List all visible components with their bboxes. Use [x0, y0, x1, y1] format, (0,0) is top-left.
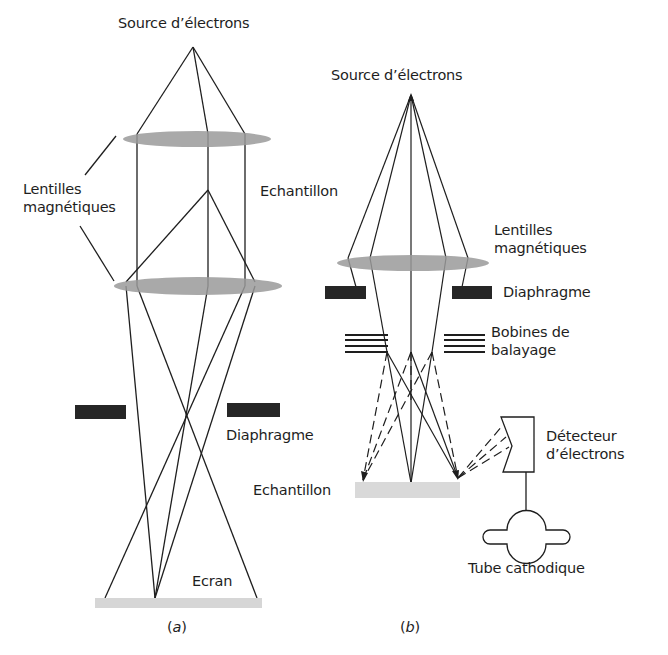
ray	[137, 47, 193, 134]
diaphragm-left-a	[75, 405, 126, 419]
ray	[411, 352, 458, 478]
label-diaphragm-b: Diaphragme	[503, 284, 591, 301]
ray	[411, 95, 468, 258]
ray-dashed	[363, 352, 411, 480]
ray	[370, 258, 387, 352]
sample-b	[355, 482, 460, 498]
label-diaphragm-a: Diaphragme	[226, 427, 314, 444]
caption-a: (a)	[167, 619, 187, 636]
arrowhead	[361, 471, 368, 482]
secondary-ray	[458, 437, 506, 478]
screen-a	[95, 598, 262, 608]
ray	[155, 286, 208, 598]
scan-coil-left	[345, 335, 388, 352]
label-sample-a: Echantillon	[260, 183, 338, 200]
diaphragm-right-b	[452, 286, 492, 299]
ray	[411, 95, 446, 258]
lens-pointer-upper	[85, 136, 116, 175]
scan-rays-dashed	[363, 352, 509, 480]
label-coils-b-1: Bobines de	[491, 324, 569, 341]
caption-b: (b)	[400, 619, 420, 636]
diaphragm-right-a	[227, 403, 280, 417]
crt-icon	[483, 511, 570, 564]
ray	[208, 190, 255, 282]
label-sample-b: Echantillon	[253, 482, 331, 499]
ray-dashed	[363, 352, 387, 480]
ray	[387, 352, 411, 483]
lens-pointer-lower	[80, 226, 114, 281]
panel-a-tem	[80, 47, 257, 598]
label-source-b: Source d’électrons	[331, 67, 462, 84]
ray	[370, 95, 411, 258]
label-source-a: Source d’électrons	[118, 15, 249, 32]
label-coils-b-2: balayage	[491, 342, 556, 359]
diaphragm-left-b	[325, 286, 366, 299]
secondary-ray	[458, 425, 503, 478]
detector-icon	[501, 417, 534, 472]
secondary-ray	[458, 447, 509, 478]
condenser-lens-a	[123, 131, 271, 147]
label-lenses-a-1: Lentilles	[23, 181, 81, 198]
ray	[432, 258, 446, 352]
ray-dashed	[432, 352, 458, 478]
label-crt-b: Tube cathodique	[468, 560, 585, 577]
objective-lens-a	[114, 277, 282, 295]
label-detector-b-2: d’électrons	[546, 446, 624, 463]
label-screen-a: Ecran	[192, 573, 232, 590]
lens-b	[337, 255, 489, 271]
label-lenses-a-2: magnétiques	[23, 199, 116, 216]
ray	[126, 190, 208, 282]
ray	[126, 286, 155, 598]
scan-coil-right	[444, 335, 485, 352]
label-lenses-b-1: Lentilles	[494, 222, 552, 239]
label-detector-b-1: Détecteur	[546, 428, 617, 445]
ray	[348, 95, 411, 258]
arrowhead	[452, 470, 459, 480]
label-lenses-b-2: magnétiques	[494, 240, 587, 257]
source-tip	[408, 93, 414, 101]
ray	[105, 286, 245, 598]
